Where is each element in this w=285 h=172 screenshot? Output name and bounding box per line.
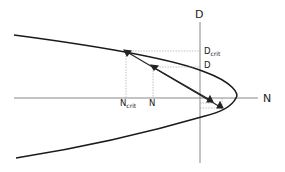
arrow-head-outer (217, 102, 223, 108)
n-value-label: N (149, 98, 155, 108)
arrow-head-ncrit (124, 50, 131, 56)
d-value-label: D (204, 60, 211, 70)
n-axis-label: N (263, 92, 271, 105)
diagram-canvas: D N Dcrit D Ncrit N (0, 0, 285, 172)
d-crit-label: Dcrit (204, 46, 221, 57)
iteration-arrows (124, 50, 223, 108)
n-crit-label: Ncrit (120, 98, 137, 109)
arrow-head-inner (207, 96, 213, 102)
d-axis-label: D (195, 8, 203, 21)
